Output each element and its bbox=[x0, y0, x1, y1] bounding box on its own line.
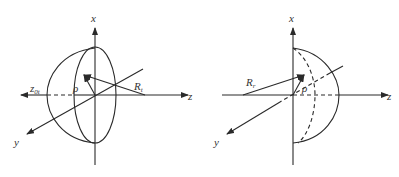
left-radius-label: Rt bbox=[133, 80, 144, 94]
right-radius-label: Rr bbox=[245, 76, 256, 90]
right-y-label: y bbox=[213, 136, 219, 148]
left-x-label: x bbox=[90, 12, 96, 24]
diagram-canvas: x z y z0t ρ Rt x z y Rr ρ bbox=[0, 0, 399, 177]
right-x-label: x bbox=[288, 12, 294, 24]
right-y-axis-outer bbox=[330, 66, 343, 73]
left-z-label: z bbox=[187, 90, 193, 102]
right-figure bbox=[222, 28, 388, 165]
left-y-axis bbox=[27, 69, 143, 134]
right-rho-label: ρ bbox=[301, 82, 307, 94]
left-y-label: y bbox=[13, 136, 19, 148]
left-rho-label: ρ bbox=[72, 82, 78, 94]
left-figure bbox=[21, 28, 188, 165]
right-y-axis bbox=[227, 102, 280, 134]
right-z-label: z bbox=[386, 90, 392, 102]
left-offset-label: z0t bbox=[29, 82, 41, 96]
